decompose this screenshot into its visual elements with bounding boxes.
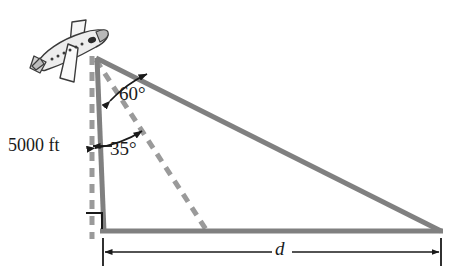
altitude-label: 5000 ft [8, 136, 60, 154]
distance-label-d: d [275, 239, 285, 258]
angle-label-35: 35° [110, 139, 137, 158]
diagram-svg [0, 0, 468, 275]
triangle-altitude-leg [97, 58, 104, 232]
diagram-canvas: 5000 ft 60° 35° d [0, 0, 468, 275]
triangle-hypotenuse-line [96, 58, 441, 231]
angle-label-60: 60° [119, 84, 146, 103]
